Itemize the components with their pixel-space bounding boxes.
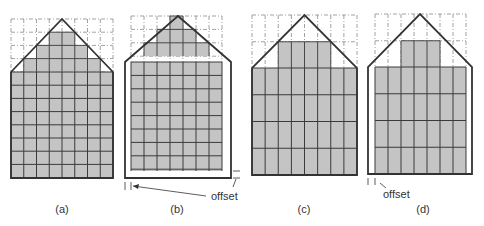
panel-b	[125, 16, 240, 196]
offset-label: offset	[383, 188, 410, 200]
panel-caption-c: (c)	[298, 203, 311, 215]
roof-cell-block	[144, 43, 209, 56]
diagram-figure: (a)offset(b)(c)offset(d)	[0, 0, 484, 226]
panel-caption-b: (b)	[170, 203, 183, 215]
offset-arrow	[133, 186, 206, 196]
grid-panels-svg	[0, 0, 484, 226]
roof-cell-block	[401, 41, 440, 68]
roof-cell-block	[157, 29, 196, 42]
panel-d	[368, 14, 472, 188]
body-cells	[131, 62, 222, 171]
panel-a	[11, 19, 113, 178]
panel-caption-d: (d)	[416, 203, 429, 215]
panel-c	[252, 15, 357, 175]
offset-label: offset	[211, 190, 238, 202]
panel-caption-a: (a)	[55, 203, 68, 215]
